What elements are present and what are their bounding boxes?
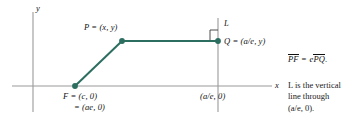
point-label-F-alt: = (ae, 0) bbox=[74, 102, 105, 112]
x-axis-label: x bbox=[275, 80, 279, 90]
point-label-Q: Q = (a/e, y) bbox=[224, 36, 265, 46]
figure-canvas: y x L P = (x, y) Q = (a/e, y) F = (c, 0)… bbox=[0, 0, 360, 122]
point-P bbox=[119, 38, 125, 44]
directrix-note-line-2: line through bbox=[288, 91, 358, 102]
segment-FP bbox=[75, 41, 122, 86]
directrix-note-line-3: (a/e, 0). bbox=[288, 103, 358, 114]
directrix-label-L: L bbox=[224, 18, 229, 28]
directrix-note: L is the vertical line through (a/e, 0). bbox=[288, 80, 358, 114]
point-Q bbox=[215, 38, 221, 44]
equation-equals-sign: = bbox=[299, 54, 310, 64]
point-label-P: P = (x, y) bbox=[84, 22, 117, 32]
tick-label-a-over-e: (a/e, 0) bbox=[200, 91, 225, 101]
segment-notation-pf: PF bbox=[288, 54, 299, 64]
equation-period: . bbox=[325, 54, 327, 64]
point-label-F: F = (c, 0) bbox=[63, 91, 97, 101]
equation-pf-epq: PF=ePQ. bbox=[288, 54, 327, 64]
point-F bbox=[72, 83, 78, 89]
directrix-note-line-1: L is the vertical bbox=[288, 80, 358, 91]
segment-notation-pq: PQ bbox=[313, 54, 325, 64]
y-axis-label: y bbox=[36, 3, 40, 13]
